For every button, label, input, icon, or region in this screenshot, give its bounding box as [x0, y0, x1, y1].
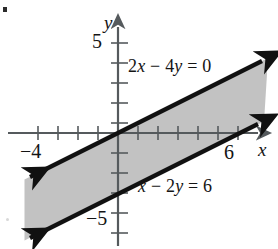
decorative-speck: [6, 218, 9, 221]
x-tick-label-negative-4: −4: [20, 140, 41, 163]
upper-line-equation-label: 2x − 4y = 0: [128, 56, 212, 77]
coordinate-plane-svg: [0, 0, 278, 249]
y-tick-label-negative-5: −5: [86, 207, 107, 230]
x-axis-name-label: x: [258, 139, 266, 161]
bullet-marker: [3, 7, 7, 12]
x-tick-label-6: 6: [224, 141, 234, 164]
graph-figure: 2x − 4y = 0 x − 2y = 6 5 −5 −4 6 y x: [0, 0, 278, 249]
y-axis-name-label: y: [104, 12, 112, 34]
y-tick-label-5: 5: [92, 30, 102, 53]
lower-line-equation-label: x − 2y = 6: [138, 176, 212, 197]
